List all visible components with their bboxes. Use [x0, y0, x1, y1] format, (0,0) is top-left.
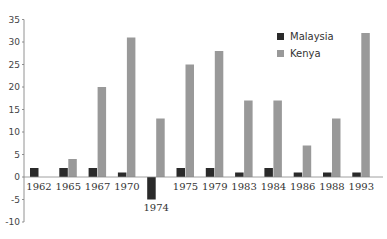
bar-kenya-1983: [244, 101, 253, 178]
bar-malaysia-1984: [264, 168, 273, 177]
x-tick-label: 1988: [319, 181, 344, 192]
x-tick-label: 1975: [173, 181, 198, 192]
bar-malaysia-1983: [235, 173, 244, 178]
x-tick-label: 1970: [114, 181, 139, 192]
bar-malaysia-1974: [147, 177, 156, 200]
y-tick-label: -5: [11, 195, 20, 205]
x-tick-label: 1986: [290, 181, 315, 192]
x-axis: 1962196519671970197419751979198319841986…: [24, 177, 383, 213]
bar-malaysia-1979: [206, 168, 215, 177]
bar-kenya-1965: [68, 159, 77, 177]
legend-swatch-malaysia: [277, 33, 284, 40]
bar-kenya-1970: [127, 38, 135, 178]
y-tick-label: 30: [9, 37, 21, 47]
bar-malaysia-1967: [89, 168, 98, 177]
legend-label-kenya: Kenya: [290, 48, 321, 59]
legend-swatch-kenya: [277, 50, 284, 57]
bar-kenya-1988: [332, 119, 341, 178]
y-axis: 35302520151050-5-10: [5, 15, 24, 228]
x-tick-label: 1965: [56, 181, 81, 192]
y-tick-label: 25: [9, 60, 20, 70]
bar-kenya-1979: [215, 51, 224, 177]
bar-kenya-1986: [303, 146, 312, 178]
bar-kenya-1974: [156, 119, 165, 178]
x-tick-label: 1984: [261, 181, 286, 192]
bar-kenya-1993: [361, 33, 370, 177]
y-tick-label: 15: [9, 105, 20, 115]
bar-malaysia-1962: [30, 168, 39, 177]
bar-kenya-1967: [98, 87, 107, 177]
bar-malaysia-1975: [177, 168, 186, 177]
bar-malaysia-1993: [352, 173, 361, 178]
x-tick-label: 1993: [349, 181, 374, 192]
bar-malaysia-1970: [118, 173, 127, 178]
y-tick-label: 0: [14, 172, 20, 182]
y-tick-label: 5: [14, 150, 20, 160]
y-tick-label: 20: [9, 82, 21, 92]
bar-malaysia-1965: [59, 168, 68, 177]
bar-malaysia-1986: [294, 173, 303, 178]
bar-chart: 35302520151050-5-10 19621965196719701974…: [0, 0, 387, 239]
y-tick-label: -10: [5, 217, 20, 227]
bar-malaysia-1988: [323, 173, 332, 178]
x-tick-label: 1983: [231, 181, 256, 192]
bar-kenya-1975: [186, 65, 195, 178]
y-tick-label: 35: [9, 15, 20, 25]
bar-kenya-1984: [273, 101, 282, 178]
legend: Malaysia Kenya: [277, 31, 334, 59]
x-tick-label: 1979: [202, 181, 227, 192]
x-tick-label: 1974: [143, 202, 168, 213]
y-tick-label: 10: [9, 127, 21, 137]
x-tick-label: 1967: [85, 181, 110, 192]
x-tick-label: 1962: [26, 181, 51, 192]
legend-label-malaysia: Malaysia: [290, 31, 334, 42]
